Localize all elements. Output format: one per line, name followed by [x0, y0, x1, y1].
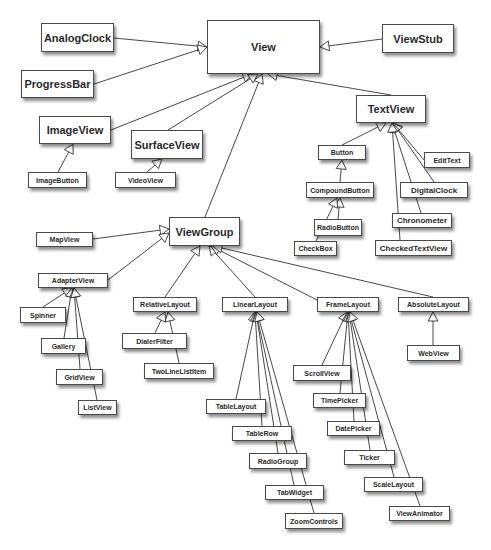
class-box-tablelayout: TableLayout [206, 399, 266, 414]
edge-analogclock-to-view [114, 38, 207, 51]
class-box-relativelayout: RelativeLayout [133, 297, 197, 312]
class-box-mapview: MapView [36, 232, 93, 247]
edge-gridview-to-adapterview [70, 288, 80, 369]
class-box-listview: ListView [78, 400, 117, 415]
class-box-spinner: Spinner [20, 307, 66, 323]
edge-viewstub-to-view [320, 39, 382, 51]
class-box-twolinelistitem: TwoLineListItem [144, 363, 214, 379]
class-hierarchy-diagram: ViewAnalogClockProgressBarViewStubImageV… [0, 0, 491, 550]
class-box-surfaceview: SurfaceView [131, 130, 203, 159]
class-box-chronometer: Chronometer [392, 213, 452, 228]
class-box-checkbox: CheckBox [294, 241, 337, 256]
edge-videoview-to-surfaceview [147, 159, 162, 172]
class-box-edittext: EditText [424, 152, 470, 168]
hollow-arrowhead-icon [320, 41, 330, 51]
class-box-scrollview: ScrollView [293, 365, 351, 381]
class-box-gridview: GridView [56, 369, 103, 385]
class-box-tablerow: TableRow [232, 426, 292, 441]
class-box-zoomcontrols: ZoomControls [285, 513, 343, 529]
edge-webview-to-absolutelayout [428, 312, 438, 345]
class-box-textview: TextView [356, 95, 426, 123]
class-box-compoundbutton: CompoundButton [306, 182, 374, 198]
edge-textview-to-view [268, 71, 391, 95]
class-box-timepicker: TimePicker [313, 393, 366, 408]
class-box-analogclock: AnalogClock [41, 23, 114, 52]
edge-viewgroup-to-view [205, 74, 263, 217]
edge-dialerfilter-to-relativelayout [155, 312, 166, 333]
class-box-view: View [207, 20, 320, 74]
edge-mapview-to-viewgroup [93, 225, 169, 239]
edge-compoundbutton-to-button [336, 160, 346, 182]
class-box-webview: WebView [407, 345, 460, 361]
class-box-button: Button [318, 145, 366, 160]
class-box-checkedtextview: CheckedTextView [375, 240, 452, 256]
class-box-radiogroup: RadioGroup [249, 453, 307, 469]
hollow-arrowhead-icon [428, 312, 438, 321]
hollow-arrowhead-icon [336, 160, 346, 169]
class-box-viewgroup: ViewGroup [169, 217, 240, 246]
class-box-ticker: Ticker [344, 450, 395, 465]
class-box-imagebutton: ImageButton [28, 172, 87, 188]
hollow-arrowhead-icon [152, 159, 162, 169]
hollow-arrowhead-icon [197, 45, 207, 55]
edge-spinner-to-adapterview [43, 288, 72, 307]
class-box-dialerfilter: DialerFilter [122, 333, 187, 349]
class-box-absolutelayout: AbsoluteLayout [398, 297, 469, 312]
class-box-radiobutton: RadioButton [314, 219, 362, 236]
class-box-viewstub: ViewStub [382, 24, 454, 53]
class-box-scalelayout: ScaleLayout [364, 477, 423, 492]
class-box-adapterview: AdapterView [38, 273, 108, 288]
edge-imagebutton-to-imageview [58, 144, 73, 172]
hollow-arrowhead-icon [165, 312, 175, 322]
class-box-videoview: VideoView [115, 172, 176, 188]
edge-button-to-textview [342, 123, 386, 145]
edge-relativelayout-to-viewgroup [165, 246, 200, 297]
edge-tablelayout-to-linearlayout [236, 312, 258, 399]
class-box-datepicker: DatePicker [327, 421, 380, 436]
class-box-imageview: ImageView [39, 116, 111, 144]
class-box-gallery: Gallery [41, 338, 86, 354]
class-box-tabwidget: TabWidget [265, 485, 324, 500]
hollow-arrowhead-icon [191, 246, 200, 256]
class-box-framelayout: FrameLayout [317, 297, 379, 312]
class-box-linearlayout: LinearLayout [222, 297, 288, 312]
hollow-arrowhead-icon [159, 233, 169, 242]
edge-adapterview-to-viewgroup [108, 233, 169, 280]
class-box-viewanimator: ViewAnimator [389, 506, 450, 521]
hollow-arrowhead-icon [348, 312, 357, 322]
class-box-digitalclock: DigitalClock [400, 182, 468, 198]
class-box-progressbar: ProgressBar [21, 70, 94, 98]
